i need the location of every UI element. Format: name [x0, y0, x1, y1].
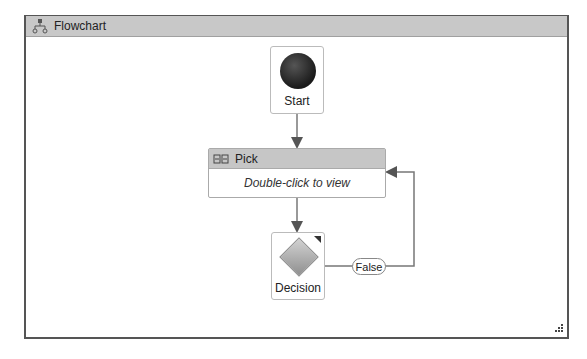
pick-header[interactable]: Pick [209, 149, 385, 169]
decision-node[interactable]: Decision [271, 232, 325, 300]
flowchart-designer: Flowchart Start Pick Double-click to vie… [24, 15, 569, 339]
resize-grip-icon[interactable] [553, 324, 563, 334]
false-branch-label[interactable]: False [352, 258, 386, 275]
expand-corner-icon[interactable] [314, 236, 321, 243]
pick-icon [213, 153, 229, 165]
decision-label: Decision [272, 281, 324, 295]
start-node[interactable]: Start [270, 46, 324, 114]
pick-body[interactable]: Double-click to view [209, 169, 385, 197]
pick-title: Pick [235, 152, 258, 166]
pick-activity[interactable]: Pick Double-click to view [208, 148, 386, 198]
start-node-ball [280, 53, 316, 89]
start-label: Start [271, 94, 323, 108]
decision-diamond-icon [279, 237, 319, 277]
